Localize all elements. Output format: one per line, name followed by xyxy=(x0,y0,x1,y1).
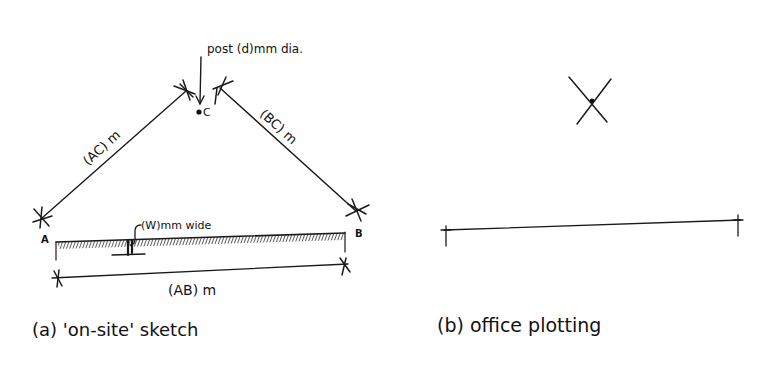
point-c-label: C xyxy=(203,106,211,119)
survey-diagram: post (d)mm dia. C A B (AC) m (BC) m (AB)… xyxy=(0,0,775,380)
line-ac xyxy=(42,91,186,218)
side-ab-label: (AB) m xyxy=(168,282,216,298)
line-bc xyxy=(220,88,356,211)
panel-a-sketch: post (d)mm dia. C A B (AC) m (BC) m (AB)… xyxy=(32,42,369,340)
tick-mark-b-icon xyxy=(346,199,369,221)
point-c-dot xyxy=(196,109,201,114)
side-ac-label: (AC) m xyxy=(80,127,123,168)
post-label: post (d)mm dia. xyxy=(207,42,303,56)
panel-b-plot: (b) office plotting xyxy=(437,77,743,336)
point-b-label: B xyxy=(355,228,363,239)
panel-b-caption: (b) office plotting xyxy=(437,314,601,336)
point-a-label: A xyxy=(41,234,49,245)
post-arrow xyxy=(200,57,201,103)
wall-ab xyxy=(56,232,345,260)
tick-mark-c-left-icon xyxy=(174,80,195,100)
tick-mark-a-icon xyxy=(33,207,52,228)
baseline-ab xyxy=(441,215,743,246)
wall-width-label: (W)mm wide xyxy=(141,219,211,232)
panel-a-caption: (a) 'on-site' sketch xyxy=(32,319,198,340)
intersection-cross-icon xyxy=(569,77,611,124)
